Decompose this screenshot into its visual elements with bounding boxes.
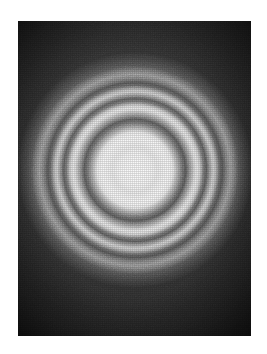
diffraction-plate — [18, 21, 251, 336]
figure-root — [0, 0, 267, 354]
diffraction-rings — [18, 21, 251, 336]
